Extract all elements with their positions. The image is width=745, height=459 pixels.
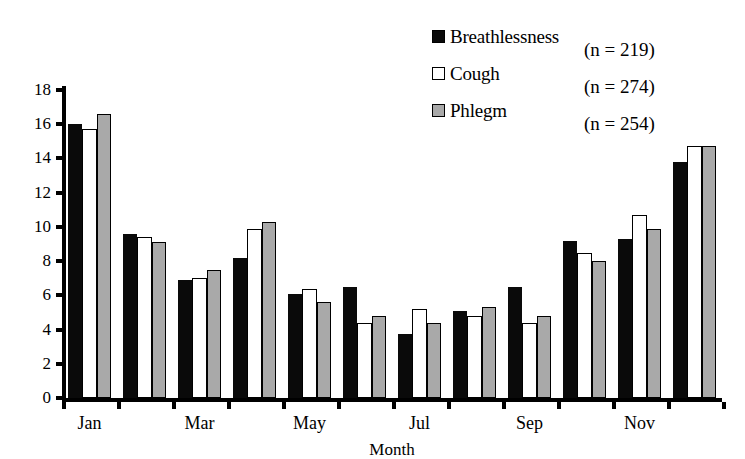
bar	[68, 124, 82, 398]
y-axis-tick	[56, 225, 63, 229]
legend-swatch-icon	[432, 67, 445, 80]
x-axis-tick-label: Jan	[55, 414, 125, 432]
bar	[673, 162, 687, 398]
bar	[317, 302, 331, 398]
bar	[97, 114, 111, 398]
bar	[372, 316, 386, 398]
legend-swatch-icon	[432, 30, 445, 43]
bar	[467, 316, 481, 398]
y-axis-tick	[56, 293, 63, 297]
legend-sample-size-breathlessness: (n = 219)	[584, 40, 655, 59]
y-axis-tick-label: 6	[17, 286, 51, 303]
y-axis-tick	[56, 156, 63, 160]
x-axis-tick	[227, 402, 231, 409]
y-axis-tick	[56, 122, 63, 126]
x-axis-tick	[172, 402, 176, 409]
x-axis-tick-label: Jul	[385, 414, 455, 432]
y-axis-tick-label: 12	[17, 184, 51, 201]
y-axis-tick-label: 18	[17, 81, 51, 98]
bar	[522, 323, 536, 398]
bar	[288, 294, 302, 398]
legend-item-cough: Cough	[432, 58, 500, 88]
bar	[152, 242, 166, 398]
bar	[687, 146, 701, 398]
x-axis-tick-label: Sep	[495, 414, 565, 432]
x-axis-tick	[502, 402, 506, 409]
bar	[412, 309, 426, 398]
x-axis-tick	[392, 402, 396, 409]
y-axis-line	[62, 86, 66, 398]
bar	[343, 287, 357, 398]
legend-label: Breathlessness	[450, 27, 559, 46]
bar	[233, 258, 247, 398]
x-axis-tick	[557, 402, 561, 409]
x-axis-tick-label: May	[275, 414, 345, 432]
bar	[647, 229, 661, 398]
bar	[262, 222, 276, 398]
y-axis-tick-label: 2	[17, 355, 51, 372]
x-axis-tick	[62, 402, 66, 409]
bar	[702, 146, 716, 398]
x-axis-tick-label: Nov	[605, 414, 675, 432]
bar	[592, 261, 606, 398]
bar	[618, 239, 632, 398]
x-axis-tick-label: Mar	[165, 414, 235, 432]
x-axis-title: Month	[62, 441, 722, 458]
bar	[82, 129, 96, 398]
y-axis-tick-label: 0	[17, 389, 51, 406]
x-axis-tick	[282, 402, 286, 409]
x-axis-tick	[667, 402, 671, 409]
y-axis-tick	[56, 191, 63, 195]
y-axis-tick	[56, 328, 63, 332]
bar	[632, 215, 646, 398]
legend-label: Cough	[450, 64, 500, 83]
x-axis-tick	[337, 402, 341, 409]
bar	[137, 237, 151, 398]
bar	[192, 278, 206, 398]
bar	[207, 270, 221, 398]
y-axis-tick	[56, 259, 63, 263]
y-axis-tick	[56, 88, 63, 92]
y-axis-tick-label: 10	[17, 218, 51, 235]
bar	[453, 311, 467, 398]
y-axis-tick-label: 4	[17, 321, 51, 338]
y-axis-tick-label: 8	[17, 252, 51, 269]
bar	[577, 253, 591, 398]
bar-chart: Breathlessness Cough Phlegm (n = 219) (n…	[0, 0, 745, 459]
plot-area: 024681012141618 JanMarMayJulSepNov Month	[62, 90, 722, 398]
legend-item-breathlessness: Breathlessness	[432, 21, 559, 51]
bar	[302, 289, 316, 399]
y-axis-tick-label: 16	[17, 115, 51, 132]
x-axis-tick	[612, 402, 616, 409]
bar	[123, 234, 137, 398]
bar	[398, 334, 412, 398]
bar	[482, 307, 496, 398]
bar	[178, 280, 192, 398]
bar	[357, 323, 371, 398]
bar	[537, 316, 551, 398]
bar	[508, 287, 522, 398]
y-axis-tick	[56, 362, 63, 366]
bar	[563, 241, 577, 398]
y-axis-tick-label: 14	[17, 149, 51, 166]
x-axis-tick	[722, 402, 726, 409]
bar	[427, 323, 441, 398]
bar	[247, 229, 261, 398]
y-axis-tick	[56, 396, 63, 400]
x-axis-tick	[117, 402, 121, 409]
x-axis-tick	[447, 402, 451, 409]
